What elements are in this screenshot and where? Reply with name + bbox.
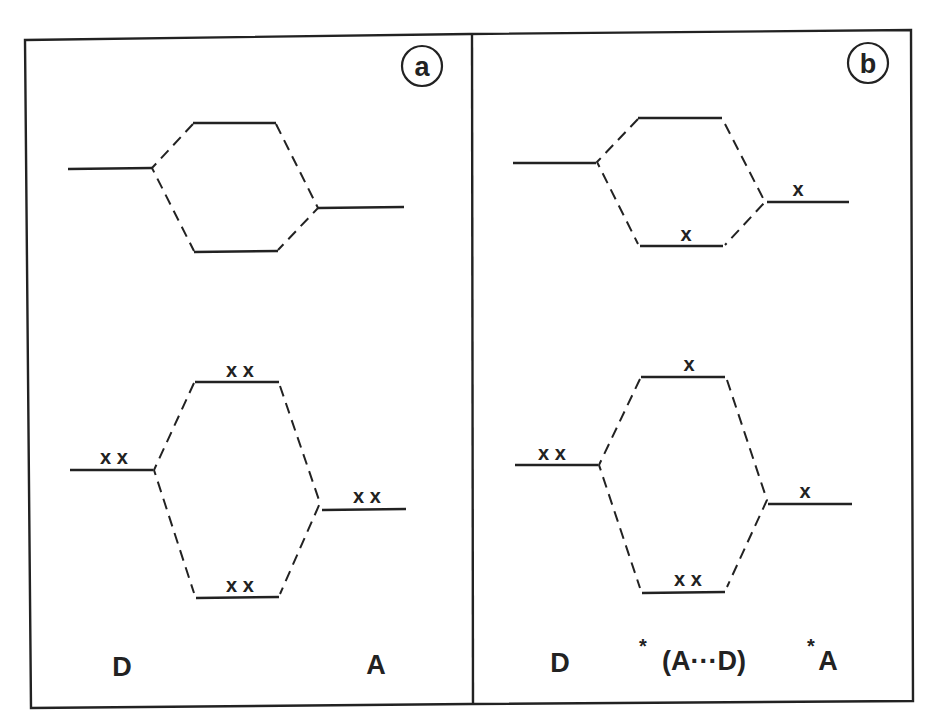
acceptor-upper-electron: x [792,178,803,200]
correlation-lines [725,124,765,245]
correlation-lines [599,379,640,588]
excited-complex-star: * [639,635,647,657]
correlation-lines [276,124,318,250]
acceptor-electrons: x x [353,485,381,507]
panel-a-lower-interaction: x x x x x x x x [70,359,406,598]
svg-text:a: a [414,52,430,82]
antibonding-electrons: x x [226,359,254,381]
panel-a-upper-interaction [68,123,404,252]
orbital-diagram-figure: a x x x x x x x x D A [0,0,939,723]
excited-acceptor-label: A [818,646,838,676]
figure-frame [25,30,913,708]
svg-text:b: b [860,49,877,79]
correlation-lines [727,380,767,587]
acceptor-electron: x [799,480,810,502]
panel-a-badge: a [402,46,442,86]
correlation-lines [152,124,194,251]
bonding-electrons: x x [226,574,254,596]
donor-label: D [112,652,132,682]
donor-label: D [550,648,570,678]
donor-electrons: x x [538,442,566,464]
correlation-lines [280,386,320,594]
panel-b-badge: b [848,43,888,83]
excited-acceptor-star: * [807,635,815,657]
panel-b: b x x x x x x x x D * (A· [513,43,888,678]
donor-electrons: x x [100,446,128,468]
bonding-electrons: x x [674,568,702,590]
correlation-lines [597,119,638,244]
acceptor-level [322,509,406,510]
bonding-upper-electron: x [680,223,691,245]
complex-label: (A···D) [662,646,746,676]
donor-upper-level [68,168,152,169]
correlation-lines [154,383,194,593]
panel-b-upper-interaction: x x [513,118,849,246]
panel-a: a x x x x x x x x D A [68,46,442,682]
panel-divider [472,34,473,704]
bonding-upper-level [194,251,278,252]
acceptor-upper-level [318,207,404,208]
bonding-level [196,597,279,598]
acceptor-label: A [366,650,386,680]
bonding-level [642,592,725,593]
panel-b-lower-interaction: x x x x x x [515,353,852,593]
antibonding-electron: x [683,353,694,375]
